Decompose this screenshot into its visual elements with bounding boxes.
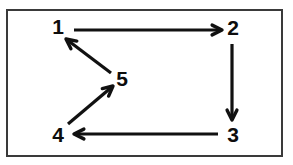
cycle-diagram-svg: 1 2 3 4 5 bbox=[0, 0, 293, 165]
node-label-1: 1 bbox=[52, 15, 64, 38]
diagram-canvas: 1 2 3 4 5 bbox=[0, 0, 293, 165]
node-label-2: 2 bbox=[227, 16, 239, 39]
node-label-3: 3 bbox=[227, 123, 239, 146]
node-label-4: 4 bbox=[52, 123, 64, 146]
node-label-5: 5 bbox=[116, 67, 128, 90]
